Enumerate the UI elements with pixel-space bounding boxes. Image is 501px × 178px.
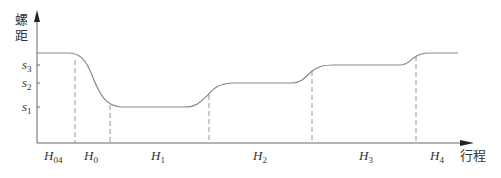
y-tick-label-s3: s3: [22, 57, 32, 74]
y-tick-label-s1: s1: [22, 99, 32, 116]
y-axis-arrow-icon: [34, 10, 40, 22]
segment-label-h1: H1: [150, 148, 165, 165]
segment-boundaries: [75, 56, 416, 143]
segment-label-h0: H0: [83, 148, 98, 165]
y-tick-label-s2: s2: [22, 75, 32, 92]
x-axis-label: 行程: [460, 148, 486, 163]
segment-label-h2: H2: [252, 148, 267, 165]
y-axis-label-char2: 距: [15, 28, 28, 43]
pitch-curve: [37, 53, 458, 107]
y-axis-label-char1: 螺: [15, 12, 28, 27]
segment-label-h3: H3: [358, 148, 373, 165]
pitch-stroke-diagram: 螺 距 s3 s2 s1 H04 H0 H1 H2 H3 H4 行程: [0, 0, 501, 178]
segment-label-h4: H4: [429, 148, 444, 165]
x-axis-arrow-icon: [460, 140, 474, 146]
segment-label-h04: H04: [43, 148, 63, 165]
